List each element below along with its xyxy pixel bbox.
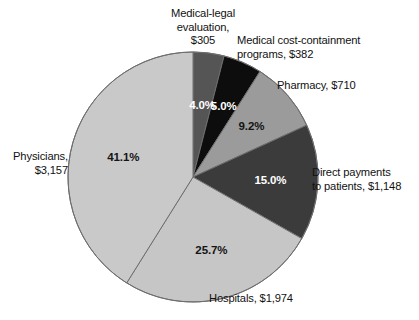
callout-hospitals: Hospitals, $1,974 [209,292,369,306]
callout-medical-cost-containment-programs: Medical cost-containment programs, $382 [237,34,415,61]
pie-chart-figure: 4.0%5.0%9.2%15.0%25.7%41.1% Medical-lega… [0,0,419,320]
pie-slice-percent-label: 41.1% [107,151,139,163]
pie-slice-percent-label: 9.2% [239,120,265,132]
callout-pharmacy: Pharmacy, $710 [277,79,417,93]
pie-slice-percent-label: 5.0% [211,100,237,112]
callout-physicians: Physicians, $3,157 [2,150,68,177]
callout-direct-payments-to-patients: Direct payments to patients, $1,148 [312,166,419,193]
pie-slice-percent-label: 25.7% [195,244,227,256]
pie-slice-percent-label: 15.0% [254,174,286,186]
